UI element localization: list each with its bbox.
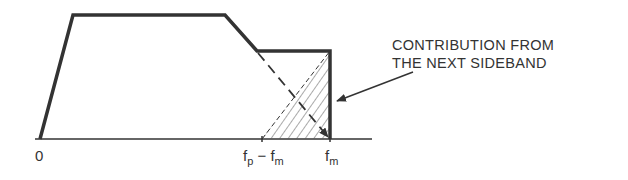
annotation-line-1: CONTRIBUTION FROM bbox=[392, 37, 554, 53]
origin-label: 0 bbox=[35, 147, 43, 164]
sideband-spectrum-diagram: 0 fp − fm fm CONTRIBUTION FROM THE NEXT … bbox=[0, 0, 628, 180]
fp-minus-fm-label: fp − fm bbox=[243, 147, 284, 167]
annotation-line-2: THE NEXT SIDEBAND bbox=[392, 55, 547, 71]
fm-label: fm bbox=[325, 147, 338, 167]
annotation-arrow bbox=[337, 72, 413, 101]
